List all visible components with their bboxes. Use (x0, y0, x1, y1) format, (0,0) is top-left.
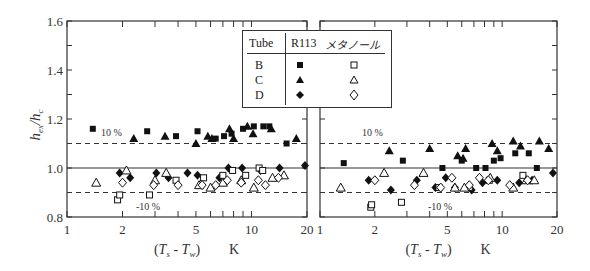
data-point (336, 183, 345, 191)
x-axis-label: (Ts - Tw) (154, 242, 200, 259)
x-tick-label: 1 (317, 222, 324, 237)
data-point (515, 178, 523, 187)
data-point (448, 173, 456, 182)
plus10-annotation: 10 % (362, 127, 383, 138)
data-point (221, 133, 227, 139)
data-point (238, 164, 246, 173)
data-point (183, 168, 191, 177)
data-point (284, 141, 290, 147)
data-point (195, 128, 201, 134)
square-filled-icon (297, 62, 303, 68)
data-point (152, 168, 160, 177)
data-point (129, 134, 138, 142)
data-point (371, 176, 379, 185)
data-point (400, 158, 406, 164)
data-point (385, 146, 394, 154)
data-point (461, 144, 470, 152)
data-point (260, 167, 266, 173)
diamond-filled-icon (296, 91, 304, 99)
data-point (544, 144, 553, 152)
data-point (119, 178, 127, 187)
y-tick-label: 1.4 (47, 63, 64, 78)
data-point (526, 150, 532, 156)
x-axis-label: (Ts - Tw) (405, 242, 451, 259)
y-tick-label: 0.8 (47, 210, 63, 225)
y-axis-label: hex/hc (27, 109, 45, 140)
x-axis-unit: K (229, 242, 239, 257)
x-tick-label: 5 (193, 222, 200, 237)
plus10-annotation: 10 % (101, 127, 122, 138)
data-point (439, 165, 445, 171)
data-point (162, 168, 171, 176)
data-point (369, 202, 375, 208)
data-point (191, 139, 200, 147)
x-tick-label: 20 (301, 222, 314, 237)
x-axis-unit: K (481, 242, 491, 257)
data-point (276, 164, 284, 173)
data-point (498, 155, 504, 161)
data-point (387, 186, 395, 195)
triangle-filled-icon (296, 76, 304, 83)
minus10-annotation: -10 % (136, 201, 160, 212)
data-point (341, 160, 347, 166)
data-point (243, 172, 249, 178)
data-point (292, 134, 301, 142)
legend-markers (243, 31, 393, 109)
data-point (509, 137, 518, 145)
data-point (534, 165, 540, 171)
square-open-icon (351, 62, 357, 68)
data-point (254, 176, 262, 185)
data-point (535, 137, 544, 145)
data-point (261, 181, 269, 190)
data-point (225, 124, 234, 132)
x-tick-label: 10 (245, 222, 258, 237)
data-point (90, 126, 96, 132)
data-point (251, 123, 257, 129)
x-tick-label: 5 (444, 222, 451, 237)
data-point (237, 178, 245, 187)
data-point (230, 167, 236, 173)
x-tick-label: 2 (119, 222, 126, 237)
legend: Tube R113 メタノール B C D (242, 30, 392, 108)
data-point (122, 166, 131, 174)
data-point (173, 133, 179, 139)
data-point (516, 141, 525, 149)
minus10-annotation: -10 % (428, 201, 452, 212)
x-tick-label: 10 (496, 222, 509, 237)
data-point (398, 199, 404, 205)
y-tick-label: 1.0 (47, 161, 63, 176)
series-triangle-filled (385, 137, 553, 162)
data-point (249, 129, 258, 137)
data-point (144, 128, 150, 134)
data-point (482, 165, 488, 171)
x-tick-label: 20 (551, 222, 564, 237)
x-tick-label: 1 (64, 222, 71, 237)
data-point (380, 168, 389, 176)
data-point (425, 144, 434, 152)
data-point (493, 146, 502, 154)
data-point (512, 150, 518, 156)
y-tick-label: 1.2 (47, 112, 63, 127)
x-tick-label: 2 (372, 222, 379, 237)
data-point (549, 168, 557, 177)
data-point (249, 183, 258, 191)
data-point (92, 178, 101, 186)
data-point (473, 165, 479, 171)
data-point (260, 123, 266, 129)
data-point (301, 161, 309, 170)
triangle-open-icon (350, 76, 358, 83)
data-point (117, 192, 123, 198)
data-point (201, 175, 207, 181)
y-tick-label: 1.6 (47, 14, 64, 29)
data-point (491, 158, 497, 164)
data-point (419, 168, 428, 176)
data-point (126, 173, 134, 182)
data-point (161, 132, 170, 140)
diamond-open-icon (350, 90, 358, 100)
data-point (146, 192, 152, 198)
